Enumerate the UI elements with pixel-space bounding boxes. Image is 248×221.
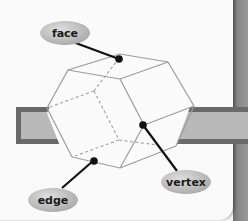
prism-body — [47, 53, 190, 172]
vertex-marker — [139, 121, 147, 129]
edge-marker — [90, 157, 98, 165]
edge-label: edge — [38, 194, 69, 207]
hexagonal-prism-diagram: face vertex edge — [0, 0, 248, 221]
face-label: face — [52, 27, 78, 40]
edge-label-bubble: edge — [28, 188, 78, 212]
vertex-label: vertex — [166, 176, 206, 189]
diagram-stage: face vertex edge — [0, 0, 248, 221]
vertex-label-bubble: vertex — [161, 170, 211, 194]
face-marker — [115, 55, 123, 63]
face-label-bubble: face — [40, 21, 90, 45]
